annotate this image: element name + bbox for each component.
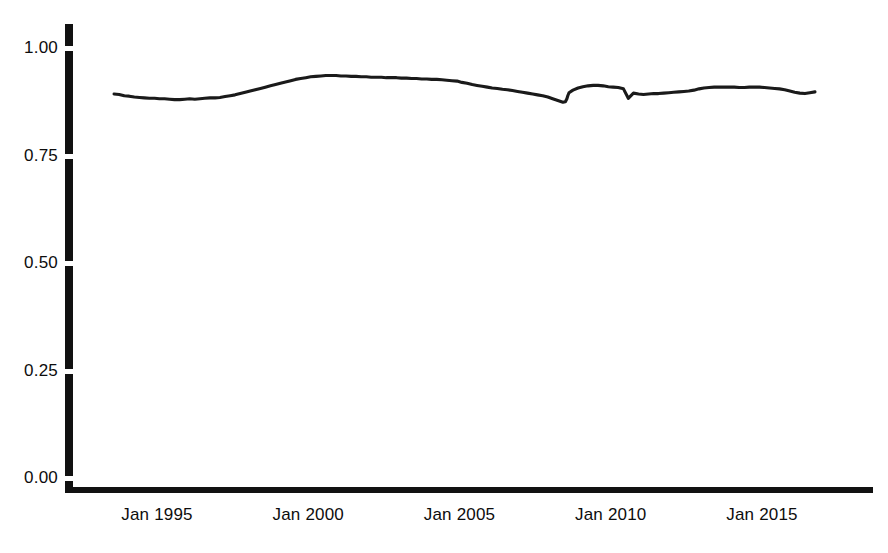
- series-line: [114, 76, 815, 103]
- plot-area: [0, 0, 888, 553]
- line-chart: 1.000.750.500.250.00 Jan 1995Jan 2000Jan…: [0, 0, 888, 553]
